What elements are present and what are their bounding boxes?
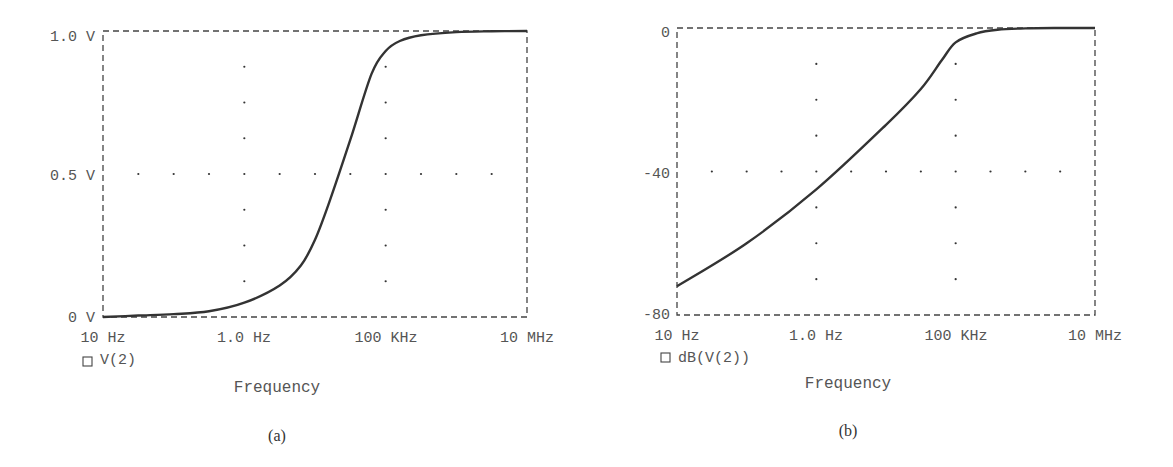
y-tick-label: 0.5 V [50, 168, 95, 185]
grid-dots [711, 63, 1062, 280]
grid-dots [137, 66, 493, 283]
x-tick-label: 10 Hz [654, 328, 699, 345]
y-tick-label: 1.0 V [50, 29, 95, 46]
y-tick-label: -80 [643, 307, 670, 324]
x-tick-label: 10 MHz [1068, 328, 1122, 345]
y-tick-label: -40 [643, 166, 670, 183]
x-tick-label: 10 Hz [80, 330, 125, 347]
legend-marker-icon [661, 353, 670, 362]
series-line-dbv2 [677, 28, 1095, 286]
x-tick-label: 100 KHz [924, 328, 987, 345]
x-axis-label: Frequency [805, 375, 892, 393]
x-tick-label: 1.0 Hz [789, 328, 843, 345]
x-tick-label: 10 MHz [500, 330, 554, 347]
legend-label: V(2) [100, 352, 136, 369]
y-tick-label: 0 V [68, 310, 95, 327]
legend-marker-icon [83, 357, 92, 366]
chart-a: 1.0 V 0.5 V 0 V 10 Hz 1.0 Hz 100 KHz 10 … [0, 0, 586, 467]
legend-label: dB(V(2)) [678, 350, 750, 367]
panel-caption: (a) [268, 427, 286, 445]
x-tick-label: 100 KHz [354, 330, 417, 347]
y-tick-label: 0 [661, 25, 670, 42]
x-tick-label: 1.0 Hz [217, 330, 271, 347]
chart-b: 0 -40 -80 10 Hz 1.0 Hz 100 KHz 10 MHz dB… [586, 0, 1173, 467]
x-axis-label: Frequency [234, 379, 321, 397]
panel-caption: (b) [839, 422, 858, 440]
